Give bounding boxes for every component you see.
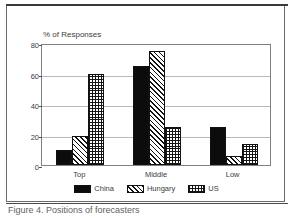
bar-group xyxy=(210,45,258,165)
bar-china-middle xyxy=(133,66,149,165)
bar-group xyxy=(133,45,181,165)
y-tick-label: 20 xyxy=(31,132,39,141)
bar-hungary-top xyxy=(72,136,88,165)
y-tick-label: 60 xyxy=(31,71,39,80)
bar-china-top xyxy=(56,150,72,165)
legend-item-us: US xyxy=(188,184,218,193)
bar-us-top xyxy=(88,74,104,166)
plot-area: 020406080 xyxy=(41,44,271,166)
bar-chart: % of Responses 020406080 TopMiddleLow Ch… xyxy=(7,6,286,202)
x-tick-label-top: Top xyxy=(73,170,85,179)
legend-label-us: US xyxy=(208,184,218,193)
x-tick-label-low: Low xyxy=(226,170,240,179)
bar-china-low xyxy=(210,127,226,165)
bar-us-middle xyxy=(165,127,181,165)
legend-swatch-us xyxy=(188,185,205,193)
y-tick-label: 80 xyxy=(31,41,39,50)
legend-label-china: China xyxy=(94,184,114,193)
bar-hungary-low xyxy=(226,156,242,165)
bar-group xyxy=(56,45,104,165)
legend-item-china: China xyxy=(74,184,114,193)
chart-legend: ChinaHungaryUS xyxy=(7,184,286,193)
bar-us-low xyxy=(242,144,258,165)
y-tick-label: 40 xyxy=(31,102,39,111)
bottom-divider-rule xyxy=(6,203,288,204)
legend-item-hungary: Hungary xyxy=(127,184,175,193)
y-axis-title: % of Responses xyxy=(43,30,101,39)
figure-frame: % of Responses 020406080 TopMiddleLow Ch… xyxy=(6,6,285,202)
bars-layer xyxy=(42,45,270,165)
y-tick-mark xyxy=(39,167,42,168)
legend-swatch-china xyxy=(74,185,91,193)
y-tick-label: 0 xyxy=(35,163,39,172)
figure-page: % of Responses 020406080 TopMiddleLow Ch… xyxy=(0,0,290,219)
bar-hungary-middle xyxy=(149,51,165,165)
legend-label-hungary: Hungary xyxy=(147,184,175,193)
x-tick-label-middle: Middle xyxy=(145,170,167,179)
legend-swatch-hungary xyxy=(127,185,144,193)
figure-caption: Figure 4. Positions of forecasters xyxy=(8,205,284,216)
